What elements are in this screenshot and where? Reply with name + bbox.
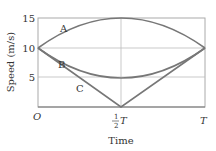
half-t: T — [120, 115, 128, 126]
t-label: T — [200, 115, 208, 126]
ytick-5: 5 — [29, 72, 35, 83]
speed-time-chart: A B C 15 10 5 Speed (m/s) O 1 2 T T Time — [0, 0, 216, 151]
origin-label: O — [33, 111, 41, 122]
half-den: 2 — [114, 122, 118, 130]
label-b: B — [58, 59, 65, 70]
ytick-10: 10 — [22, 43, 35, 54]
y-axis-label: Speed (m/s) — [5, 32, 16, 93]
half-num: 1 — [114, 113, 118, 121]
label-c: C — [76, 83, 84, 94]
label-a: A — [59, 23, 68, 34]
ytick-15: 15 — [22, 13, 35, 24]
x-axis-label: Time — [108, 135, 133, 146]
